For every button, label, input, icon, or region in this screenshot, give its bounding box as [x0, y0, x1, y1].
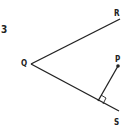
label-R: R [114, 9, 120, 18]
ray-QR [31, 19, 120, 64]
problem-number: 3 [1, 24, 7, 35]
label-S: S [114, 118, 119, 127]
right-angle-marker-icon [101, 95, 106, 104]
point-P [116, 64, 120, 68]
segment-PF [98, 66, 118, 101]
label-Q: Q [21, 59, 27, 68]
geometry-diagram: 3 Q R P S [0, 0, 124, 132]
label-P: P [115, 55, 120, 64]
